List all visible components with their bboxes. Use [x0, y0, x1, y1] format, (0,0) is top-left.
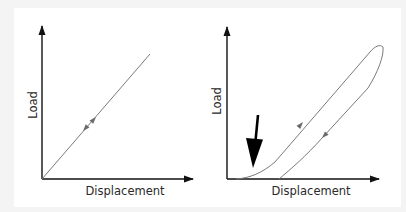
loading-curve [236, 46, 383, 179]
diagram-canvas: Load Displacement Load Displacement [0, 0, 406, 212]
figure-frame: Load Displacement Load Displacement [0, 0, 406, 212]
chart-hysteresis: Load Displacement [210, 27, 383, 198]
loading-arrow-icon [297, 122, 304, 129]
toe-region-callout-arrow-icon [246, 115, 263, 168]
y-axis-label: Load [210, 87, 224, 115]
y-axis-label: Load [26, 91, 40, 119]
unloading-curve [279, 47, 383, 179]
chart-linear: Load Displacement [26, 26, 193, 198]
x-axis-label: Displacement [271, 184, 351, 198]
load-curve [42, 54, 150, 179]
x-axis-label: Displacement [85, 184, 165, 198]
